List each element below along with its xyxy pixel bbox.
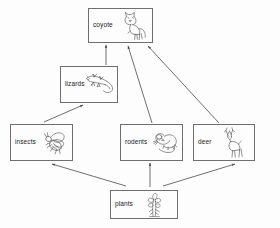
rodent-illustration-icon <box>147 125 182 160</box>
lizard-illustration-icon <box>84 67 120 102</box>
node-deer[interactable]: deer <box>193 124 255 161</box>
edge-deer-to-coyote <box>148 46 219 123</box>
food-web-diagram: coyote lizards <box>0 0 280 228</box>
node-label-plants: plants <box>115 201 133 208</box>
node-insects[interactable]: insects <box>10 124 73 161</box>
edge-plants-to-deer <box>163 164 235 186</box>
node-label-deer: deer <box>198 139 211 146</box>
edge-rodents-to-coyote <box>128 46 152 123</box>
node-rodents[interactable]: rodents <box>120 124 183 161</box>
node-lizards[interactable]: lizards <box>60 66 118 103</box>
edge-plants-to-insects <box>52 164 126 186</box>
deer-illustration-icon <box>211 125 254 160</box>
plant-illustration-icon <box>133 191 177 218</box>
node-label-rodents: rodents <box>125 139 147 146</box>
node-coyote[interactable]: coyote <box>88 8 153 43</box>
node-label-coyote: coyote <box>93 22 113 29</box>
node-label-insects: insects <box>15 139 36 146</box>
node-label-lizards: lizards <box>65 81 84 88</box>
coyote-illustration-icon <box>113 9 152 42</box>
node-plants[interactable]: plants <box>110 190 178 219</box>
insect-illustration-icon <box>36 125 72 160</box>
edge-insects-to-lizards <box>44 105 83 122</box>
